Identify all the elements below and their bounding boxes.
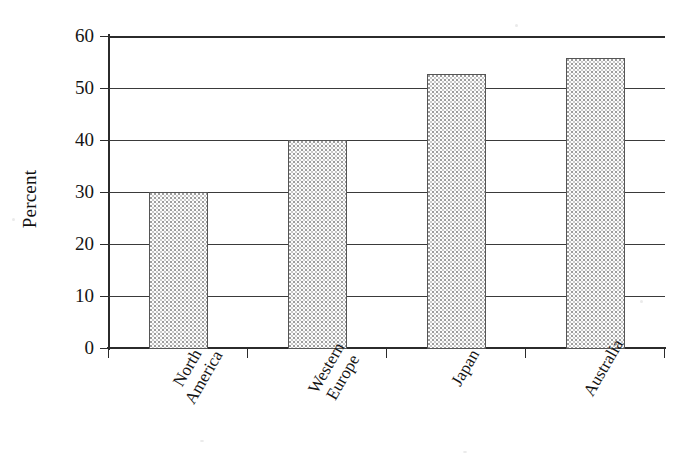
scan-speck [12,218,15,221]
y-tick-label-30: 30 [50,181,94,203]
bar-australia [566,58,625,349]
x-tick-1 [247,349,248,358]
y-tick-label-10: 10 [50,285,94,307]
scan-speck [515,24,518,27]
bar-western-europe [288,140,347,349]
y-tick-label-50: 50 [50,77,94,99]
scan-speck [640,300,643,303]
y-axis-title: Percent [19,139,41,259]
y-tick-label-60: 60 [50,25,94,47]
scan-speck [200,440,204,442]
scan-speck [463,451,467,453]
x-tick-0 [108,349,109,358]
y-tick-20 [100,244,109,245]
bar-japan [427,74,486,349]
gridline-60 [108,36,665,38]
x-tick-3 [525,349,526,358]
y-tick-60 [100,36,109,37]
y-tick-label-0: 0 [50,337,94,359]
y-tick-50 [100,88,109,89]
y-tick-10 [100,296,109,297]
y-tick-label-40: 40 [50,129,94,151]
y-tick-label-20: 20 [50,233,94,255]
x-tick-4 [664,349,665,358]
y-tick-30 [100,192,109,193]
y-tick-40 [100,140,109,141]
bar-chart: Percent 60 50 40 30 20 10 0 North Americ… [0,0,691,471]
x-tick-2 [386,349,387,358]
